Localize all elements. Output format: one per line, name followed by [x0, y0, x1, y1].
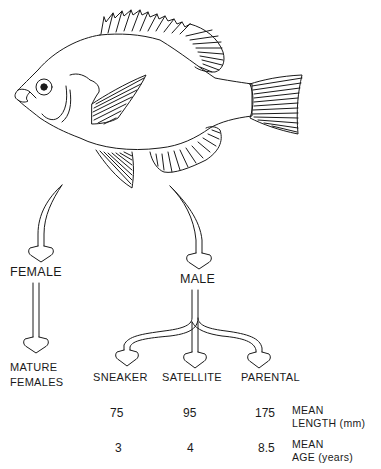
pelvic-fin [96, 150, 134, 188]
pectoral-fin [92, 75, 146, 124]
label-parental: PARENTAL [241, 370, 300, 384]
sneaker-mean-length: 75 [110, 406, 123, 420]
row-label-age-line2: AGE (years) [292, 451, 353, 464]
satellite-mean-age: 4 [187, 441, 194, 455]
caudal-fin [250, 75, 302, 134]
diagram-artwork [0, 0, 381, 469]
male-branch-arrows [116, 290, 271, 368]
label-female: FEMALE [10, 265, 62, 279]
label-satellite: SATELLITE [162, 370, 222, 384]
satellite-mean-length: 95 [183, 406, 196, 420]
row-label-length-line1: MEAN [292, 404, 324, 417]
fish-illustration [15, 10, 302, 188]
label-mature-females-line2: FEMALES [10, 375, 63, 389]
parental-mean-age: 8.5 [258, 441, 275, 455]
parental-mean-length: 175 [255, 406, 275, 420]
arrow-to-male [170, 186, 211, 269]
sneaker-mean-age: 3 [115, 441, 122, 455]
label-sneaker: SNEAKER [93, 370, 148, 384]
anal-fin [150, 127, 221, 173]
label-mature-females-line1: MATURE [10, 360, 57, 374]
label-male: MALE [180, 272, 215, 286]
arrow-to-female [29, 185, 62, 262]
arrow-to-mature-females [24, 283, 49, 353]
row-label-age-line1: MEAN [292, 438, 324, 451]
row-label-length-line2: LENGTH (mm) [292, 417, 365, 430]
